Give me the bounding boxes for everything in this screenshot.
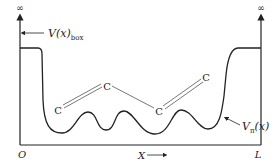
box-potential-label: V(x)box (48, 27, 83, 42)
infinity-right-label: ∞ (257, 3, 265, 13)
pi-potential-label: Vπ(x) (242, 120, 269, 135)
infinity-left-label: ∞ (16, 3, 24, 13)
potential-curve (20, 48, 261, 134)
carbon-chain (63, 79, 203, 109)
bond-c3-c4-a (163, 79, 201, 106)
carbon-atom-1: C (54, 105, 62, 116)
carbon-atom-2: C (103, 81, 111, 92)
bond-c1-c2-b (64, 87, 102, 108)
origin-label: O (18, 149, 26, 160)
carbon-atom-4: C (202, 72, 210, 83)
x-axis-label: X (137, 150, 146, 161)
carbon-atom-3: C (155, 106, 163, 117)
pi-label-arrow (226, 118, 240, 125)
potential-diagram: ∞ ∞ V(x)box C C C C Vπ(x) O L X (0, 0, 275, 164)
end-label: L (254, 149, 262, 160)
bond-c2-c3 (112, 86, 154, 108)
bond-c1-c2-a (63, 84, 101, 105)
bond-c3-c4-b (165, 82, 203, 109)
